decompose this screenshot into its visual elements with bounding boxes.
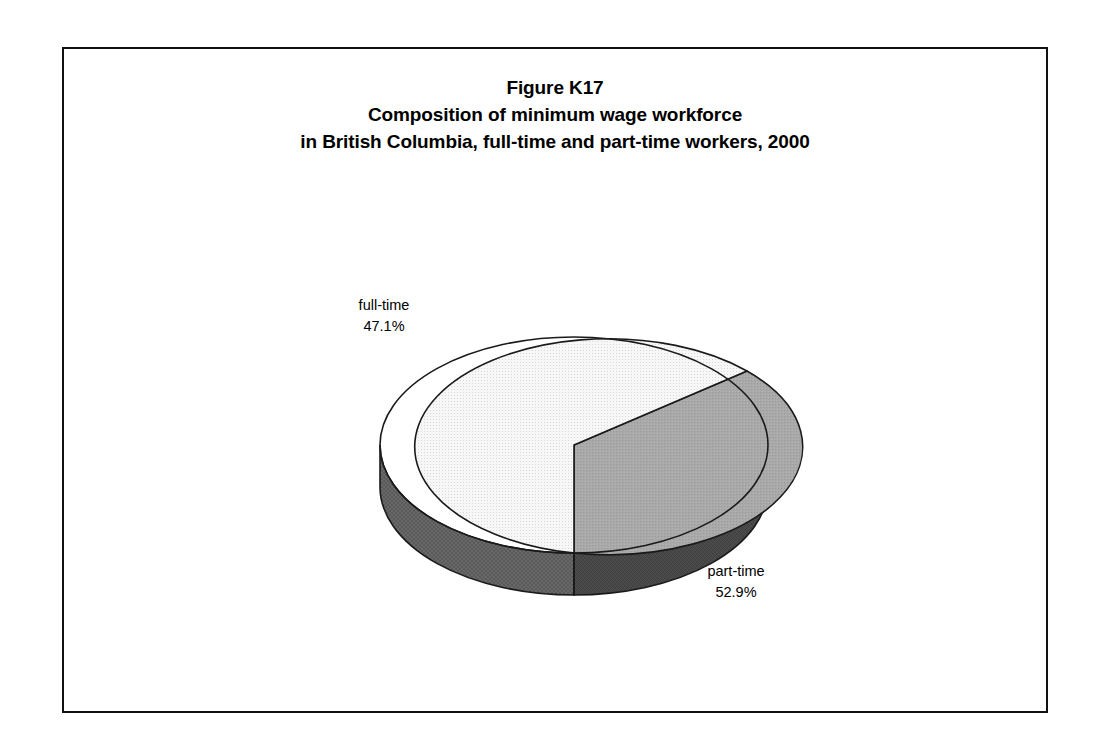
slice-label-part-time-value: 52.9% (684, 582, 788, 603)
slice-label-full-time-name: full-time (336, 295, 432, 316)
slice-label-full-time-value: 47.1% (336, 316, 432, 337)
figure-page: Figure K17 Composition of minimum wage w… (0, 0, 1108, 750)
pie-chart-area: full-time 47.1% part-time 52.9% (64, 49, 1050, 711)
slice-label-full-time: full-time 47.1% (336, 295, 432, 337)
slice-label-part-time: part-time 52.9% (684, 561, 788, 603)
figure-border-frame: Figure K17 Composition of minimum wage w… (62, 47, 1048, 713)
slice-label-part-time-name: part-time (684, 561, 788, 582)
